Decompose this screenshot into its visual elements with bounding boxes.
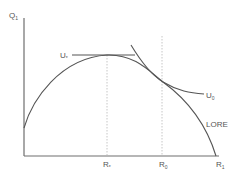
r-star-label: R*: [103, 160, 111, 170]
lore-label: LORE: [206, 120, 228, 129]
u-zero-indifference-curve: [131, 45, 204, 94]
x-axis-label: R1: [216, 160, 225, 170]
lore-diagram: Q1 U* U0 LORE R* R0 R1: [0, 0, 237, 182]
y-axis-label: Q1: [9, 11, 18, 21]
lore-frontier-curve: [24, 55, 216, 156]
u-star-label: U*: [60, 51, 68, 61]
u-zero-label: U0: [206, 91, 215, 101]
r-zero-label: R0: [159, 160, 168, 170]
